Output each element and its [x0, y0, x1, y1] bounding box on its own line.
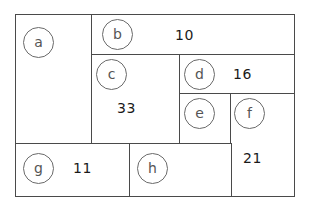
region-b-label-circle: b [102, 19, 133, 50]
region-d-label-circle: d [184, 59, 215, 90]
region-c-label-circle: c [96, 59, 127, 90]
region-g-label: g [34, 161, 43, 175]
region-d-label: d [195, 67, 204, 81]
region-g-label-circle: g [23, 153, 54, 184]
region-g-value: 11 [73, 161, 92, 175]
region-e-label-circle: e [184, 98, 215, 129]
region-d-value: 16 [233, 67, 252, 81]
region-f-label: f [247, 106, 252, 120]
region-a-label: a [34, 35, 43, 49]
region-h-label: h [148, 161, 157, 175]
region-a-label-circle: a [23, 27, 54, 58]
region-f-value: 21 [243, 151, 262, 165]
region-c-label: c [108, 67, 116, 81]
region-h-label-circle: h [137, 153, 168, 184]
region-b-label: b [113, 27, 122, 41]
region-partition-diagram: a b 10 c 33 d 16 e f 21 g 11 h [0, 0, 310, 212]
region-f-label-circle: f [234, 98, 265, 129]
region-b-value: 10 [175, 28, 194, 42]
region-c-value: 33 [117, 101, 136, 115]
region-e-label: e [195, 106, 204, 120]
